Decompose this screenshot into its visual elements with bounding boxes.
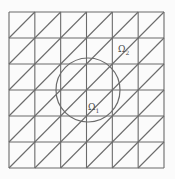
omega-1-label: Ω1 (88, 103, 99, 114)
diagonal-mesh-line (9, 64, 35, 90)
diagonal-mesh-line (87, 142, 113, 168)
diagonal-mesh-line (35, 142, 61, 168)
diagonal-mesh-line (138, 64, 164, 90)
diagonal-mesh-line (9, 116, 35, 142)
diagonal-mesh-line (112, 90, 138, 116)
diagonal-mesh-line (87, 12, 113, 38)
diagonal-mesh-line (61, 38, 87, 64)
diagonal-mesh-line (112, 64, 138, 90)
diagonal-mesh-line (112, 116, 138, 142)
omega-1-subscript: 1 (95, 107, 99, 114)
diagonal-mesh-line (61, 116, 87, 142)
diagonal-mesh-line (112, 12, 138, 38)
diagonal-mesh-line (9, 90, 35, 116)
diagonal-mesh-line (9, 142, 35, 168)
omega-2-label: Ω2 (118, 45, 129, 56)
omega-2-subscript: 2 (125, 49, 129, 56)
diagonal-mesh-line (87, 64, 113, 90)
diagonal-mesh-line (112, 142, 138, 168)
diagonal-mesh-line (35, 12, 61, 38)
diagonal-mesh-line (138, 12, 164, 38)
diagonal-mesh-line (138, 116, 164, 142)
diagonal-mesh-line (138, 38, 164, 64)
diagonal-mesh-line (9, 12, 35, 38)
mesh-diagram (0, 0, 175, 179)
diagonal-mesh-line (35, 38, 61, 64)
diagonal-mesh-line (61, 142, 87, 168)
diagonal-mesh-line (35, 116, 61, 142)
diagonal-mesh-line (9, 38, 35, 64)
diagonal-mesh-line (61, 12, 87, 38)
diagonal-mesh-line (138, 90, 164, 116)
diagonal-mesh-line (138, 142, 164, 168)
